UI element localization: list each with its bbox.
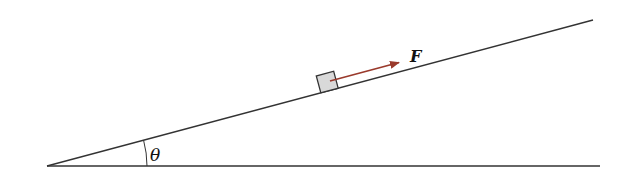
block — [316, 71, 338, 93]
inclined-plane-diagram: F θ — [0, 0, 636, 181]
incline-line — [47, 20, 593, 166]
force-label: F — [409, 47, 423, 66]
angle-label: θ — [150, 145, 160, 165]
force-arrow — [330, 63, 399, 82]
angle-arc — [144, 140, 147, 166]
